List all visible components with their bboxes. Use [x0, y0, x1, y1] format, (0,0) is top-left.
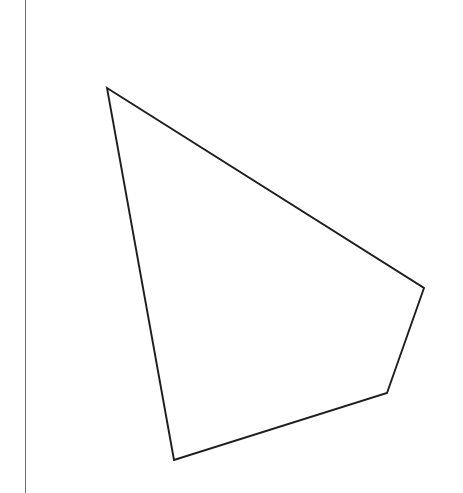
figure-canvas — [0, 0, 463, 493]
worksheet-page — [0, 0, 463, 493]
page-background — [0, 0, 463, 493]
